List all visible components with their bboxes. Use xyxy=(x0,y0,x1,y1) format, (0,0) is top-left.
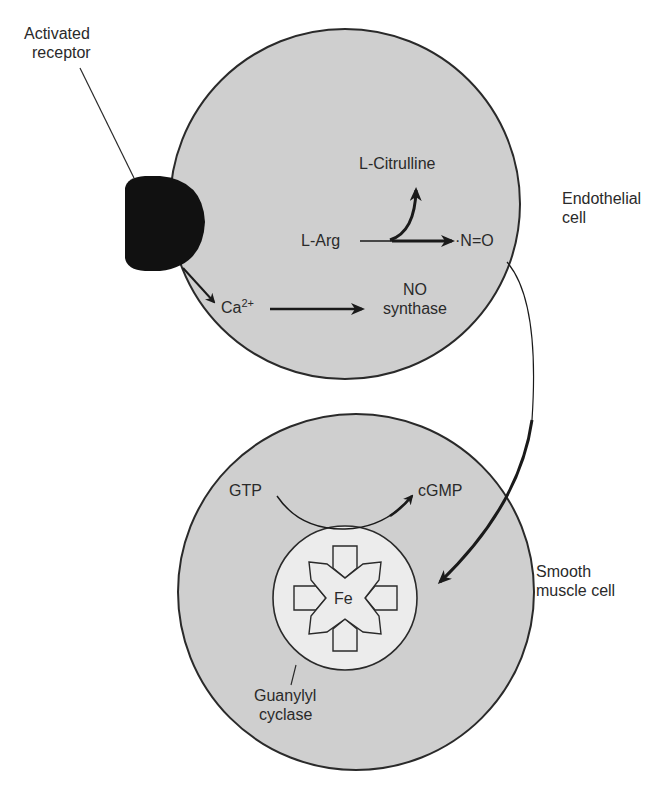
smooth-muscle-label-line1: Smooth xyxy=(536,562,615,581)
nos-label-line2: synthase xyxy=(372,299,458,318)
fe-label: Fe xyxy=(334,589,353,608)
endothelial-cell-label: Endothelial cell xyxy=(562,189,641,227)
receptor-label-line1: Activated xyxy=(24,24,91,43)
endothelial-label-line2: cell xyxy=(562,208,641,227)
receptor-leader-line xyxy=(80,68,134,178)
guanylyl-label-line2: cyclase xyxy=(254,705,316,724)
no-synthase-label: NO synthase xyxy=(372,280,458,318)
diagram-canvas xyxy=(0,0,650,794)
cgmp-label: cGMP xyxy=(418,481,462,500)
calcium-symbol: Ca xyxy=(221,299,241,316)
receptor-label-line2: receptor xyxy=(24,43,91,62)
guanylyl-cyclase-label: Guanylyl cyclase xyxy=(254,686,316,724)
nos-label-line1: NO xyxy=(372,280,458,299)
calcium-charge: 2+ xyxy=(241,297,254,309)
receptor-label: Activated receptor xyxy=(24,24,91,62)
calcium-ion-label: Ca2+ xyxy=(221,298,254,317)
gtp-label: GTP xyxy=(229,481,262,500)
l-citrulline-label: L-Citrulline xyxy=(359,154,435,173)
endothelial-label-line1: Endothelial xyxy=(562,189,641,208)
smooth-muscle-cell-label: Smooth muscle cell xyxy=(536,562,615,600)
l-arg-label: L-Arg xyxy=(301,231,340,250)
endothelial-cell xyxy=(170,29,520,379)
nitric-oxide-label: ·N=O xyxy=(455,231,494,250)
smooth-muscle-label-line2: muscle cell xyxy=(536,581,615,600)
guanylyl-label-line1: Guanylyl xyxy=(254,686,316,705)
